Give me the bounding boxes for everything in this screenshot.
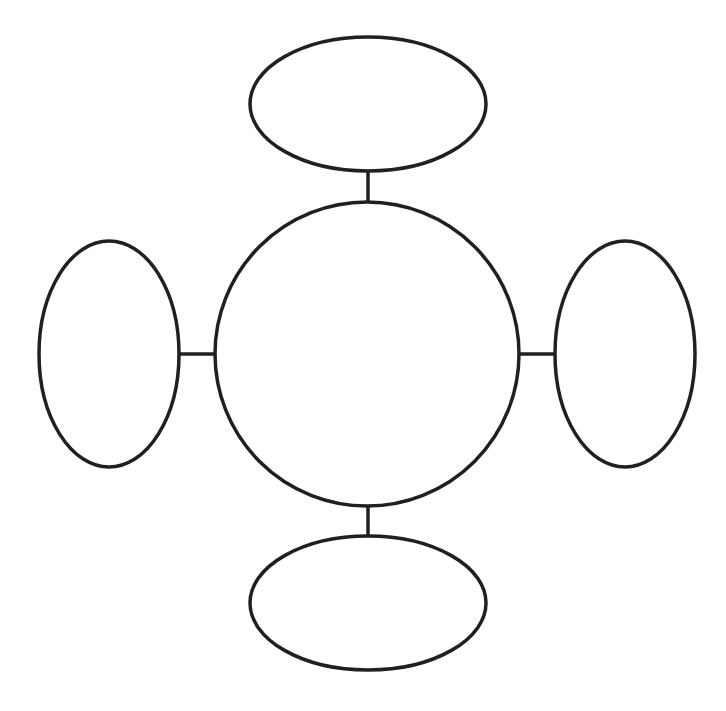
bubble-map-diagram	[0, 0, 726, 711]
ellipse-right	[555, 241, 695, 467]
ellipse-left	[39, 241, 179, 467]
ellipse-top	[250, 37, 486, 171]
outer-bubble-left	[39, 241, 179, 467]
outer-bubble-bottom	[250, 536, 486, 670]
outer-bubble-right	[555, 241, 695, 467]
ellipse-bottom	[250, 536, 486, 670]
center-circle	[215, 202, 519, 506]
center-group	[215, 202, 519, 506]
outer-bubble-top	[250, 37, 486, 171]
